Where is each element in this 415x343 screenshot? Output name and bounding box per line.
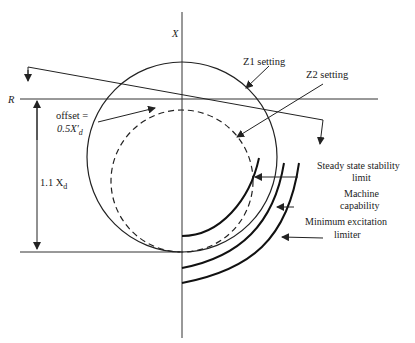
mc-label-line2: capability [340, 200, 379, 211]
z2-label: Z2 setting [306, 69, 349, 80]
minimum-excitation-arc [182, 163, 299, 283]
mc-label-line1: Machine [344, 188, 380, 199]
loss-of-field-diagram: X R Z1 setting Z2 setting offset = 0.5X'… [0, 0, 415, 343]
z1-leader [246, 66, 269, 88]
mel-label-line1: Minimum excitation [305, 216, 387, 227]
mel-leader [282, 237, 323, 238]
machine-capability-arc [182, 163, 284, 268]
mel-label-line2: limiter [334, 229, 361, 240]
x-axis-label: X [171, 28, 179, 39]
offset-arrow [98, 108, 155, 122]
z1-label: Z1 setting [243, 56, 286, 67]
r-axis-label: R [7, 94, 15, 105]
sssl-label-line2: limit [352, 172, 371, 183]
z2-leader [237, 84, 323, 137]
offset-label-line2: 0.5X'd [57, 123, 84, 137]
sssl-label-line1: Steady state stability [317, 160, 400, 171]
steady-state-stability-arc [182, 158, 259, 236]
offset-label-line1: offset = [56, 110, 88, 121]
height-label: 1.1 Xd [40, 177, 67, 191]
